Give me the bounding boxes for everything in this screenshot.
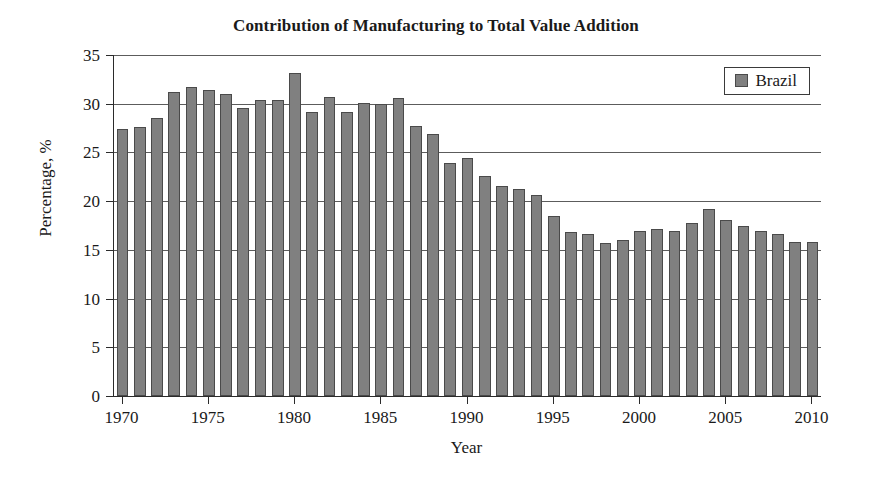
x-tick-mark-1990 <box>467 396 468 404</box>
y-tick-mark-10 <box>106 299 114 300</box>
plot-area: Brazil <box>113 55 820 396</box>
x-axis-label: Year <box>113 438 820 458</box>
y-tick-mark-5 <box>106 347 114 348</box>
y-tick-mark-35 <box>106 55 114 56</box>
x-tick-mark-2005 <box>725 396 726 404</box>
bar-1972 <box>151 118 163 396</box>
legend: Brazil <box>724 67 810 95</box>
x-tick-label-1990: 1990 <box>432 408 502 428</box>
y-tick-label-15: 15 <box>52 242 100 259</box>
x-tick-label-2010: 2010 <box>776 408 846 428</box>
y-tick-mark-25 <box>106 152 114 153</box>
bar-1979 <box>272 100 284 396</box>
bar-1993 <box>513 189 525 396</box>
y-tick-label-35: 35 <box>52 47 100 64</box>
bar-1991 <box>479 176 491 396</box>
legend-label-brazil: Brazil <box>755 72 797 89</box>
bar-1974 <box>186 87 198 396</box>
y-tick-mark-20 <box>106 201 114 202</box>
bar-1976 <box>220 94 232 396</box>
bar-1998 <box>600 243 612 396</box>
chart-figure: Contribution of Manufacturing to Total V… <box>0 0 872 482</box>
bar-1978 <box>255 100 267 396</box>
x-tick-mark-1980 <box>294 396 295 404</box>
x-tick-mark-1985 <box>380 396 381 404</box>
x-tick-mark-1970 <box>122 396 123 404</box>
x-tick-label-1985: 1985 <box>345 408 415 428</box>
y-tick-label-10: 10 <box>52 291 100 308</box>
bar-1984 <box>358 103 370 396</box>
x-tick-label-1970: 1970 <box>87 408 157 428</box>
gridline-35 <box>114 55 821 56</box>
bar-1981 <box>306 112 318 396</box>
x-tick-mark-2010 <box>811 396 812 404</box>
bar-1980 <box>289 73 301 396</box>
bar-1989 <box>444 163 456 396</box>
legend-swatch-brazil <box>735 74 748 87</box>
bar-1996 <box>565 232 577 396</box>
bar-2001 <box>651 229 663 396</box>
bar-1971 <box>134 127 146 396</box>
bar-2006 <box>738 226 750 396</box>
y-tick-label-25: 25 <box>52 144 100 161</box>
bar-1999 <box>617 240 629 396</box>
bar-2010 <box>807 242 819 396</box>
bar-1977 <box>237 108 249 396</box>
bar-1970 <box>117 129 129 396</box>
x-tick-label-2000: 2000 <box>604 408 674 428</box>
bar-1985 <box>375 104 387 396</box>
bar-1990 <box>462 158 474 396</box>
bar-1983 <box>341 112 353 396</box>
bar-1997 <box>582 234 594 396</box>
y-tick-label-5: 5 <box>52 339 100 356</box>
bar-2008 <box>772 234 784 396</box>
bar-1975 <box>203 90 215 396</box>
x-tick-label-1975: 1975 <box>173 408 243 428</box>
bar-2007 <box>755 231 767 396</box>
x-tick-label-1995: 1995 <box>518 408 588 428</box>
bar-2000 <box>634 231 646 396</box>
bar-2005 <box>720 220 732 396</box>
bar-1992 <box>496 186 508 396</box>
bar-1973 <box>168 92 180 396</box>
bar-1995 <box>548 216 560 396</box>
y-tick-label-20: 20 <box>52 193 100 210</box>
bar-1988 <box>427 134 439 396</box>
y-tick-mark-30 <box>106 104 114 105</box>
x-tick-label-2005: 2005 <box>690 408 760 428</box>
y-tick-mark-15 <box>106 250 114 251</box>
x-tick-mark-1995 <box>553 396 554 404</box>
y-tick-label-30: 30 <box>52 96 100 113</box>
x-tick-label-1980: 1980 <box>259 408 329 428</box>
chart-title: Contribution of Manufacturing to Total V… <box>0 16 872 36</box>
bar-2003 <box>686 223 698 396</box>
bar-1982 <box>324 97 336 396</box>
bar-2009 <box>789 242 801 396</box>
bar-2002 <box>669 231 681 396</box>
bar-2004 <box>703 209 715 396</box>
x-tick-mark-1975 <box>208 396 209 404</box>
y-tick-label-0: 0 <box>52 388 100 405</box>
bar-1994 <box>531 195 543 396</box>
bar-1986 <box>393 98 405 396</box>
bar-1987 <box>410 126 422 396</box>
x-tick-mark-2000 <box>639 396 640 404</box>
